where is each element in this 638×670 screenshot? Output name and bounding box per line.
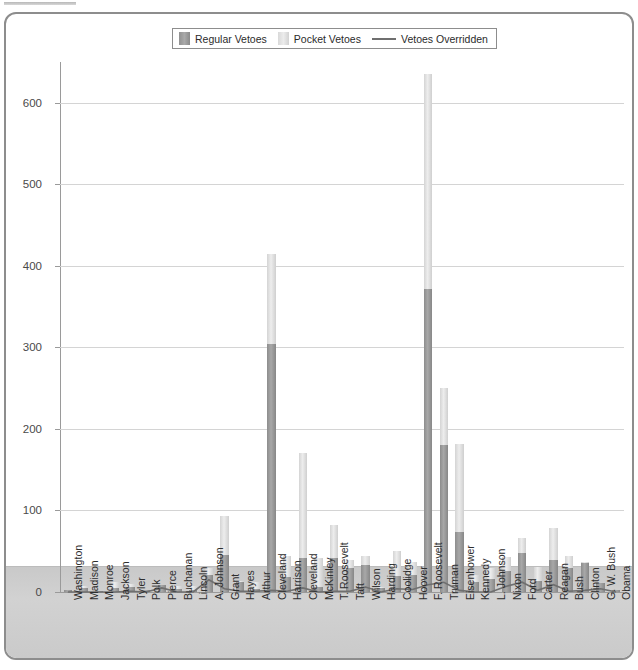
chart-legend: Regular Vetoes Pocket Vetoes Vetoes Over… xyxy=(172,28,497,49)
legend-label-overridden: Vetoes Overridden xyxy=(401,33,488,45)
decorative-top-rule xyxy=(4,2,76,5)
legend-item-vetoes-overridden: Vetoes Overridden xyxy=(372,33,488,45)
legend-label-regular: Regular Vetoes xyxy=(195,33,267,45)
x-tick-label: Hoover xyxy=(417,566,429,600)
x-tick-label: T. Roosevelt xyxy=(338,542,350,600)
x-tick-label: Truman xyxy=(448,564,460,600)
legend-swatch-regular-icon xyxy=(179,32,190,45)
vetoes-overridden-line xyxy=(60,62,624,592)
x-tick-label: Hayes xyxy=(244,570,256,600)
x-tick-label: Madison xyxy=(88,560,100,600)
x-tick-label: Cleveland xyxy=(276,553,288,600)
x-tick-label: Nixon xyxy=(511,573,523,600)
legend-line-marker-icon xyxy=(372,38,396,40)
x-tick-label: Harding xyxy=(385,563,397,600)
x-tick-label: Bush xyxy=(573,576,585,600)
x-tick-label: Lincoln xyxy=(197,567,209,600)
x-tick-label: Monroe xyxy=(103,564,115,600)
x-tick-label: Buchanan xyxy=(182,553,194,600)
x-tick-label: L. Johnson xyxy=(495,549,507,600)
x-tick-label: Reagan xyxy=(558,563,570,600)
x-tick-label: Taft xyxy=(354,583,366,600)
legend-label-pocket: Pocket Vetoes xyxy=(294,33,361,45)
plot-area xyxy=(60,62,624,592)
x-tick-label: Cleveland xyxy=(307,553,319,600)
y-tick-label: 500 xyxy=(4,178,42,190)
chart-container: Regular Vetoes Pocket Vetoes Vetoes Over… xyxy=(4,12,634,660)
y-tick-label: 400 xyxy=(4,260,42,272)
legend-item-pocket-vetoes: Pocket Vetoes xyxy=(278,32,361,45)
x-tick-label: Pierce xyxy=(166,570,178,600)
x-tick-label: Grant xyxy=(229,574,241,600)
legend-swatch-pocket-icon xyxy=(278,32,289,45)
y-tick-label: 600 xyxy=(4,97,42,109)
x-tick-label: F. Roosevelt xyxy=(432,542,444,600)
x-tick-label: Washington xyxy=(72,545,84,600)
x-tick-label: Kennedy xyxy=(479,559,491,600)
x-tick-label: Polk xyxy=(150,580,162,600)
x-tick-label: Tyler xyxy=(135,577,147,600)
y-tick-label: 300 xyxy=(4,341,42,353)
x-tick-label: Eisenhower xyxy=(464,545,476,600)
x-tick-label: G. W. Bush xyxy=(605,547,617,600)
x-tick-label: Ford xyxy=(526,578,538,600)
x-tick-label: Obama xyxy=(620,566,632,600)
x-tick-label: Harrison xyxy=(291,560,303,600)
y-tick-mark xyxy=(55,592,60,593)
x-tick-label: McKinley xyxy=(323,557,335,600)
legend-item-regular-vetoes: Regular Vetoes xyxy=(179,32,267,45)
x-tick-label: Clinton xyxy=(589,567,601,600)
x-tick-label: Coolidge xyxy=(401,559,413,600)
y-tick-label: 200 xyxy=(4,423,42,435)
x-tick-label: Jackson xyxy=(119,561,131,600)
x-tick-label: Carter xyxy=(542,571,554,600)
x-tick-label: A. Johnson xyxy=(213,547,225,600)
y-tick-label: 100 xyxy=(4,504,42,516)
x-tick-label: Arthur xyxy=(260,571,272,600)
x-tick-label: Wilson xyxy=(370,568,382,600)
y-tick-label: 0 xyxy=(4,586,42,598)
